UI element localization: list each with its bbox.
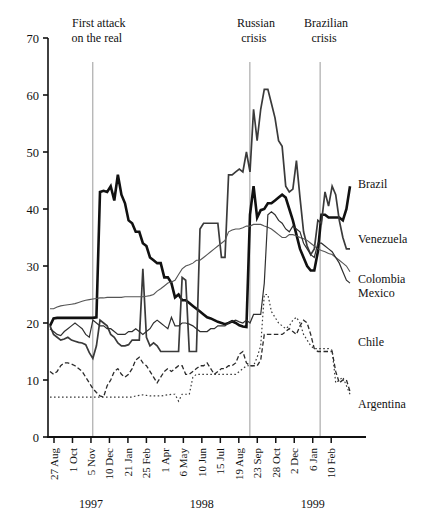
year-label-1997: 1997 <box>79 497 103 511</box>
x-tick-label-0: 27 Aug <box>48 448 60 481</box>
annotation-text-russian-crisis-1: crisis <box>241 31 267 45</box>
series-label-mexico: Mexico <box>358 286 395 300</box>
x-tick-label-11: 23 Sep <box>251 448 263 479</box>
y-tick-label-20: 20 <box>27 317 40 331</box>
y-tick-label-10: 10 <box>27 374 40 388</box>
series-label-venezuela: Venezuela <box>358 232 408 246</box>
x-tick-label-8: 10 Jun <box>196 448 208 478</box>
x-tick-label-9: 15 Jul <box>214 448 226 475</box>
series-label-chile: Chile <box>358 335 384 349</box>
series-label-brazil: Brazil <box>358 177 388 191</box>
series-label-colombia: Colombia <box>358 272 406 286</box>
year-label-1998: 1998 <box>190 497 214 511</box>
x-tick-label-5: 25 Feb <box>140 448 152 479</box>
y-tick-label-70: 70 <box>27 32 40 46</box>
y-tick-label-30: 30 <box>27 260 40 274</box>
annotation-text-first-attack-on-the-real-1: on the real <box>71 31 122 45</box>
annotation-text-russian-crisis-0: Russian <box>237 16 275 30</box>
x-tick-label-3: 10 Dec <box>103 448 115 480</box>
x-tick-label-4: 21 Jan <box>122 448 134 477</box>
chart-root: 010203040506070 27 Aug1 Oct5 Nov10 Dec21… <box>0 0 433 532</box>
annotation-text-brazilian-crisis-1: crisis <box>311 31 337 45</box>
line-chart: 010203040506070 27 Aug1 Oct5 Nov10 Dec21… <box>0 0 433 532</box>
x-tick-label-12: 28 Oct <box>270 448 282 478</box>
y-tick-label-60: 60 <box>27 89 40 103</box>
series-label-argentina: Argentina <box>358 397 406 411</box>
x-tick-label-15: 10 Feb <box>325 448 337 479</box>
annotation-text-brazilian-crisis-0: Brazilian <box>304 16 348 30</box>
annotation-text-first-attack-on-the-real-0: First attack <box>72 16 126 30</box>
x-tick-label-14: 6 Jan <box>307 448 319 471</box>
x-tick-label-7: 6 May <box>177 448 189 477</box>
x-tick-label-2: 5 Nov <box>85 448 97 476</box>
y-tick-label-0: 0 <box>33 431 39 445</box>
x-tick-label-6: 1 Apr <box>159 448 171 473</box>
year-label-1999: 1999 <box>301 497 325 511</box>
x-tick-label-10: 19 Aug <box>233 448 245 481</box>
x-tick-label-1: 1 Oct <box>67 448 79 472</box>
y-tick-label-40: 40 <box>27 203 40 217</box>
y-tick-label-50: 50 <box>27 146 40 160</box>
x-tick-label-13: 2 Dec <box>288 448 300 474</box>
